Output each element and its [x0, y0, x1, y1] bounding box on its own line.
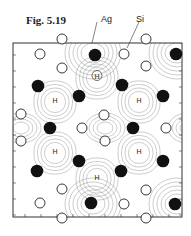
ag-atom: [85, 197, 98, 210]
si-atom: [141, 213, 151, 223]
si-atom: [35, 198, 45, 208]
si-atom: [141, 34, 151, 44]
si-atom: [57, 213, 67, 223]
ag-atom: [32, 80, 45, 93]
si-pointer-line: [127, 22, 139, 48]
ag-atom: [157, 90, 170, 103]
si-atom: [161, 123, 171, 133]
si-atom: [119, 199, 129, 209]
hollow-site-label: H: [94, 174, 99, 181]
si-atom: [141, 61, 151, 71]
ag-atom: [89, 49, 102, 62]
hollow-site-label: H: [136, 97, 141, 104]
ag-atom: [116, 79, 129, 92]
si-atom: [141, 185, 151, 195]
hollow-site-label: H: [52, 97, 57, 104]
ag-atom: [44, 122, 57, 135]
stm-contour-diagram: HHHHHH: [0, 0, 191, 236]
ag-atom: [170, 48, 183, 61]
si-atom: [119, 49, 129, 59]
ag-atom: [115, 165, 128, 178]
si-atom: [57, 184, 67, 194]
si-atom: [99, 110, 109, 120]
si-atoms: [16, 34, 171, 223]
ag-pointer-line: [92, 22, 97, 43]
ag-atom: [157, 155, 170, 168]
hollow-site-label: H: [136, 148, 141, 155]
si-atom: [16, 136, 26, 146]
hollow-site-label: H: [52, 148, 57, 155]
si-atom: [35, 49, 45, 59]
hollow-site-label: H: [94, 73, 99, 80]
si-atom: [57, 63, 67, 73]
ag-atom: [169, 198, 182, 211]
ag-atom: [73, 155, 86, 168]
ag-atom: [127, 122, 140, 135]
si-atom: [100, 136, 110, 146]
si-atom: [16, 109, 26, 119]
ag-atom: [31, 165, 44, 178]
si-atom: [77, 123, 87, 133]
si-atom: [57, 34, 67, 44]
ag-atom: [73, 90, 86, 103]
